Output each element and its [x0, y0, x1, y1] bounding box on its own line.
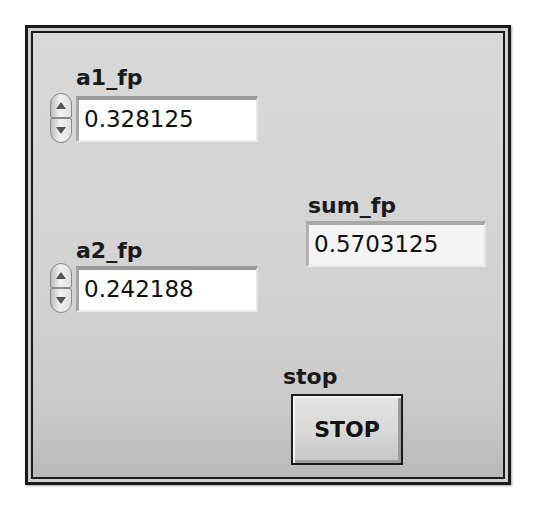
front-panel: a1_fp 0.328125 a2_fp 0.242188 sum_fp 0.5… — [31, 31, 505, 479]
stop-label: stop — [283, 364, 337, 390]
a1-fp-increment-button[interactable] — [50, 93, 72, 118]
stop-button[interactable]: STOP — [291, 394, 403, 465]
a2-fp-numeric-input[interactable]: 0.242188 — [76, 266, 258, 312]
front-panel-frame: a1_fp 0.328125 a2_fp 0.242188 sum_fp 0.5… — [25, 25, 511, 485]
a2-fp-label: a2_fp — [76, 238, 142, 264]
sum-fp-label: sum_fp — [308, 193, 396, 219]
a2-fp-increment-button[interactable] — [50, 263, 72, 288]
spin-down-arrow-icon — [56, 297, 66, 304]
a2-fp-spinner[interactable] — [50, 263, 72, 313]
a1-fp-decrement-button[interactable] — [50, 118, 72, 143]
spin-down-arrow-icon — [56, 127, 66, 134]
spin-up-arrow-icon — [56, 102, 66, 109]
a1-fp-spinner[interactable] — [50, 93, 72, 143]
a2-fp-decrement-button[interactable] — [50, 288, 72, 313]
sum-fp-numeric-indicator: 0.5703125 — [306, 221, 486, 267]
a1-fp-label: a1_fp — [76, 65, 142, 91]
a1-fp-numeric-input[interactable]: 0.328125 — [76, 96, 258, 142]
spin-up-arrow-icon — [56, 272, 66, 279]
